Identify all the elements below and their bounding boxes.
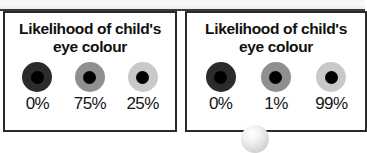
pupil-icon bbox=[83, 71, 96, 84]
eye-result-item: 75% bbox=[64, 62, 116, 113]
eye-icon-dark bbox=[22, 62, 52, 92]
panel-right-title-line1: Likelihood of child's bbox=[191, 20, 361, 38]
panel-right-title-line2: eye colour bbox=[191, 38, 361, 56]
eye-icon-light bbox=[128, 62, 158, 92]
panel-left-title-line2: eye colour bbox=[9, 38, 171, 56]
eye-result-item: 1% bbox=[250, 62, 302, 113]
eye-result-item: 0% bbox=[11, 62, 63, 113]
pupil-icon bbox=[269, 71, 282, 84]
eye-percent-label: 25% bbox=[127, 94, 159, 113]
eye-percent-label: 0% bbox=[26, 94, 49, 113]
panel-left-title: Likelihood of child's eye colour bbox=[5, 13, 175, 56]
panel-left-title-line1: Likelihood of child's bbox=[9, 20, 171, 38]
eye-icon-medium bbox=[261, 62, 291, 92]
pupil-icon bbox=[325, 71, 338, 84]
eye-percent-label: 0% bbox=[209, 94, 232, 113]
sphere-decoration bbox=[241, 125, 269, 153]
eye-result-item: 25% bbox=[117, 62, 169, 113]
likelihood-panel-left: Likelihood of child's eye colour 0% 75% … bbox=[3, 11, 177, 132]
pupil-icon bbox=[31, 71, 44, 84]
eye-result-item: 99% bbox=[305, 62, 357, 113]
top-strip bbox=[0, 0, 365, 9]
panel-right-title: Likelihood of child's eye colour bbox=[187, 13, 365, 56]
likelihood-panel-right: Likelihood of child's eye colour 0% 1% 9… bbox=[185, 11, 367, 132]
eye-icon-dark bbox=[206, 62, 236, 92]
panel-right-eye-row: 0% 1% 99% bbox=[187, 56, 365, 113]
eye-percent-label: 75% bbox=[74, 94, 106, 113]
eye-percent-label: 99% bbox=[315, 94, 347, 113]
eye-percent-label: 1% bbox=[264, 94, 287, 113]
eye-result-item: 0% bbox=[195, 62, 247, 113]
eye-icon-light bbox=[316, 62, 346, 92]
pupil-icon bbox=[214, 71, 227, 84]
eye-icon-medium bbox=[75, 62, 105, 92]
pupil-icon bbox=[136, 71, 149, 84]
panel-left-eye-row: 0% 75% 25% bbox=[5, 56, 175, 113]
